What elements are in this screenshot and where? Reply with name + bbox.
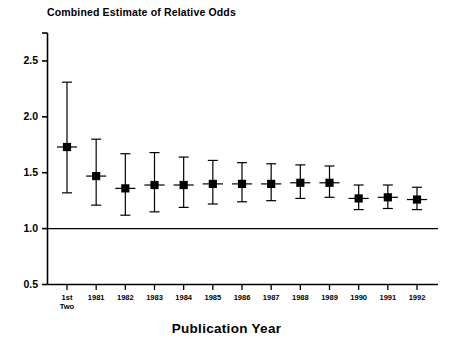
data-point-group — [57, 82, 77, 193]
data-point-marker — [180, 181, 188, 189]
x-axis-title: Publication Year — [0, 321, 453, 336]
y-axis-tick-label: 2.0 — [12, 110, 38, 122]
data-point-marker — [413, 195, 421, 203]
data-point-marker — [238, 180, 246, 188]
y-axis-tick-label: 0.5 — [12, 278, 38, 290]
data-point-marker — [325, 179, 333, 187]
chart-container: Combined Estimate of Relative Odds 0.51.… — [0, 0, 453, 352]
data-point-group — [232, 163, 252, 202]
data-point-group — [115, 154, 135, 215]
data-point-marker — [150, 181, 158, 189]
y-axis-tick-label: 1.0 — [12, 222, 38, 234]
data-point-group — [349, 185, 369, 210]
x-axis-tick-label-line2: Two — [45, 302, 89, 312]
data-point-group — [407, 187, 427, 209]
data-point-marker — [92, 172, 100, 180]
data-point-marker — [63, 143, 71, 151]
data-point-marker — [384, 193, 392, 201]
data-point-group — [378, 185, 398, 208]
data-point-group — [174, 157, 194, 207]
data-point-marker — [121, 184, 129, 192]
data-point-marker — [296, 179, 304, 187]
data-point-marker — [209, 180, 217, 188]
data-point-group — [144, 153, 164, 212]
data-point-group — [203, 160, 223, 204]
data-point-group — [261, 164, 281, 201]
data-point-marker — [267, 180, 275, 188]
y-axis-tick-label: 2.5 — [12, 54, 38, 66]
data-point-group — [319, 166, 339, 197]
data-point-marker — [355, 194, 363, 202]
data-point-group — [290, 165, 310, 199]
data-point-group — [86, 139, 106, 205]
x-axis-tick-label: 1992 — [395, 293, 439, 303]
y-axis-tick-label: 1.5 — [12, 166, 38, 178]
